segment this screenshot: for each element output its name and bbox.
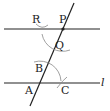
label-b: B [35,63,43,74]
label-q: Q [55,40,64,51]
diagram-canvas: R P Q B A C l [0,0,110,111]
label-c: C [61,85,69,96]
label-a: A [25,85,33,96]
label-p: P [59,14,66,25]
label-l: l [101,77,105,88]
label-r: R [32,14,40,25]
construction-figure [0,0,110,111]
point-p-dot [61,27,64,30]
